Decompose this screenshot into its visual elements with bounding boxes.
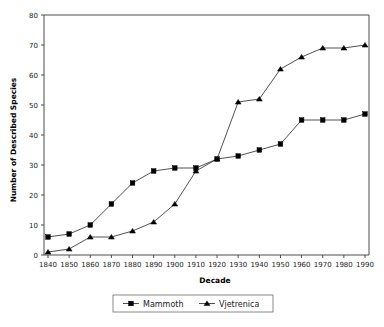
x-tick-label: 1970 xyxy=(314,261,332,269)
x-tick-label: 1900 xyxy=(166,261,184,269)
data-point xyxy=(299,118,304,123)
x-tick-label: 1920 xyxy=(208,261,226,269)
data-point xyxy=(130,181,135,186)
data-point xyxy=(320,118,325,123)
x-tick-label: 1890 xyxy=(145,261,163,269)
data-point xyxy=(342,118,347,123)
legend-marker-square xyxy=(129,301,134,306)
y-tick-label: 30 xyxy=(29,162,38,170)
data-point xyxy=(236,154,241,159)
x-tick-label: 1870 xyxy=(102,261,120,269)
x-tick-label: 1980 xyxy=(335,261,353,269)
x-tick-label: 1930 xyxy=(229,261,247,269)
data-point xyxy=(173,166,178,171)
x-tick-label: 1940 xyxy=(250,261,268,269)
y-tick-label: 60 xyxy=(29,72,38,80)
y-tick-label: 10 xyxy=(29,222,38,230)
data-point xyxy=(363,112,368,117)
x-tick-label: 1950 xyxy=(272,261,290,269)
data-point xyxy=(278,142,283,147)
data-point xyxy=(151,169,156,174)
y-tick-label: 70 xyxy=(29,42,38,50)
x-tick-label: 1860 xyxy=(81,261,99,269)
x-axis-title: Decade xyxy=(199,276,230,285)
y-tick-label: 0 xyxy=(34,252,38,260)
y-tick-label: 50 xyxy=(29,102,38,110)
x-tick-label: 1840 xyxy=(39,261,57,269)
y-tick-label: 80 xyxy=(29,12,38,20)
x-tick-label: 1880 xyxy=(124,261,142,269)
x-tick-label: 1990 xyxy=(356,261,374,269)
x-tick-label: 1960 xyxy=(293,261,311,269)
legend-label: Mammoth xyxy=(143,300,184,309)
y-axis-title: Number of Described Species xyxy=(9,77,18,202)
chart-figure: 01020304050607080 1840185018601870188018… xyxy=(0,0,384,327)
data-point xyxy=(257,148,262,153)
legend-label: Vjetrenica xyxy=(219,300,259,309)
data-point xyxy=(109,202,114,207)
y-tick-label: 20 xyxy=(29,192,38,200)
chart-legend: MammothVjetrenica xyxy=(113,295,273,312)
data-point xyxy=(67,232,72,237)
y-tick-label: 40 xyxy=(29,132,38,140)
data-point xyxy=(88,223,93,228)
x-tick-label: 1850 xyxy=(60,261,78,269)
data-point xyxy=(46,235,51,240)
line-chart: 01020304050607080 1840185018601870188018… xyxy=(0,0,384,327)
chart-background xyxy=(0,0,384,327)
x-tick-label: 1910 xyxy=(187,261,205,269)
